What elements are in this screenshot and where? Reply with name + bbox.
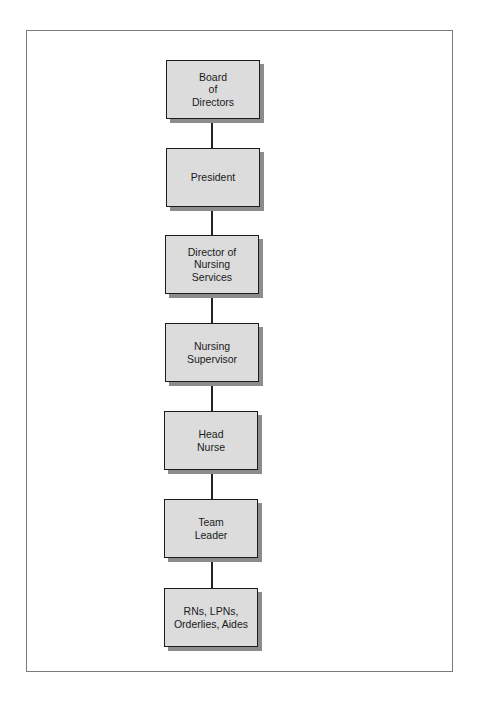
node-team-leader: Team Leader (164, 499, 258, 558)
node-label: RNs, LPNs, Orderlies, Aides (174, 605, 248, 630)
node-staff: RNs, LPNs, Orderlies, Aides (164, 588, 258, 647)
connector-supervisor-headnurse (211, 382, 213, 411)
connector-president-director (211, 207, 213, 235)
node-president: President (166, 148, 260, 207)
node-label: President (191, 171, 235, 184)
node-label: Head Nurse (197, 428, 225, 453)
node-director-of-nursing-services: Director of Nursing Services (165, 235, 259, 294)
node-nursing-supervisor: Nursing Supervisor (165, 323, 259, 382)
connector-headnurse-teamleader (211, 470, 213, 499)
node-board-of-directors: Board of Directors (166, 60, 260, 119)
connector-director-supervisor (211, 294, 213, 323)
node-label: Director of Nursing Services (188, 246, 236, 284)
connector-board-president (211, 120, 213, 148)
node-head-nurse: Head Nurse (164, 411, 258, 470)
connector-teamleader-staff (211, 558, 213, 588)
node-label: Team Leader (195, 516, 228, 541)
node-label: Nursing Supervisor (187, 340, 237, 365)
node-label: Board of Directors (192, 71, 234, 109)
